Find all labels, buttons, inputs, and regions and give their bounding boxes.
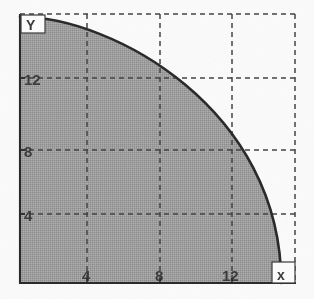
shaded-region	[20, 14, 296, 283]
quarter-circle-chart: Y x 12 8 4 4 8 12	[0, 0, 314, 299]
y-tick-label-12: 12	[24, 71, 41, 88]
x-tick-label-8: 8	[155, 267, 163, 284]
y-axis-name-box: Y	[21, 15, 45, 33]
y-tick-label-4: 4	[24, 207, 33, 224]
y-tick-label-8: 8	[24, 143, 32, 160]
plot-figure: Y x 12 8 4 4 8 12	[0, 0, 314, 299]
x-axis-name-box: x	[272, 262, 295, 283]
x-axis-name-label: x	[277, 267, 285, 283]
y-axis-name-label: Y	[26, 17, 36, 33]
x-tick-label-12: 12	[222, 267, 239, 284]
